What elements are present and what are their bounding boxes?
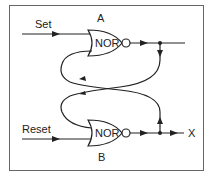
arrow-icon xyxy=(52,31,60,37)
arrow-icon xyxy=(79,76,86,81)
set-input-line xyxy=(22,31,92,37)
reset-label: Reset xyxy=(22,123,51,135)
arrow-icon xyxy=(157,117,163,124)
gate-a-type: NOR xyxy=(95,37,120,49)
nor-latch-diagram: Set NOR A Reset NOR B X xyxy=(0,0,213,177)
inverter-bubble-icon xyxy=(122,129,130,137)
output-x-label: X xyxy=(188,127,196,139)
gate-b-type: NOR xyxy=(95,127,120,139)
reset-input-line xyxy=(22,136,92,142)
gate-b-label: B xyxy=(98,151,105,163)
arrow-icon xyxy=(140,130,148,136)
arrow-icon xyxy=(140,40,148,46)
set-label: Set xyxy=(35,18,52,30)
gate-a-label: A xyxy=(97,12,105,24)
arrow-icon xyxy=(52,136,60,142)
arrow-icon xyxy=(157,50,163,57)
junction-dot xyxy=(158,131,162,135)
inverter-bubble-icon xyxy=(122,39,130,47)
arrow-icon xyxy=(170,130,178,136)
